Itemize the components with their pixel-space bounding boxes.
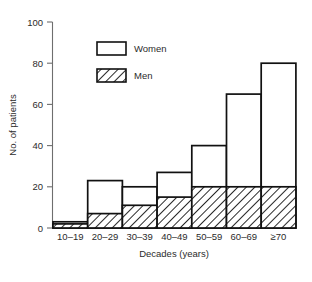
x-tick-label-20-29: 20–29 <box>92 231 118 242</box>
bar-men-30-39 <box>122 205 157 228</box>
bar-chart: 100 80 60 40 20 0 No. of patients <box>0 0 312 282</box>
chart-legend: Women Men <box>97 42 167 82</box>
bar-men-50-59 <box>192 187 227 228</box>
x-tick-label-60-69: 60–69 <box>231 231 257 242</box>
y-axis-tick-labels: 100 80 60 40 20 0 <box>27 17 43 234</box>
bar-men-10-19 <box>53 224 88 228</box>
chart-figure: 100 80 60 40 20 0 No. of patients <box>0 0 312 282</box>
x-tick-label-40-49: 40–49 <box>161 231 187 242</box>
legend-label-men: Men <box>134 70 152 81</box>
bars-group <box>53 63 296 228</box>
y-tick-label-0: 0 <box>38 223 43 234</box>
legend-swatch-women <box>97 42 126 55</box>
legend-label-women: Women <box>134 43 167 54</box>
legend-swatch-men <box>97 69 126 82</box>
x-tick-label-70plus: ≥70 <box>271 231 287 242</box>
bar-men-40-49 <box>157 197 192 228</box>
x-tick-label-10-19: 10–19 <box>57 231 83 242</box>
bar-men-60-69 <box>227 187 262 228</box>
x-tick-label-30-39: 30–39 <box>126 231 152 242</box>
bar-men-70plus <box>261 187 296 228</box>
y-tick-label-60: 60 <box>32 99 43 110</box>
x-tick-label-50-59: 50–59 <box>196 231 222 242</box>
y-tick-label-20: 20 <box>32 181 43 192</box>
x-axis-tick-labels: 10–19 20–29 30–39 40–49 50–59 60–69 ≥70 <box>57 231 286 242</box>
y-axis-ticks <box>47 22 53 228</box>
y-tick-label-100: 100 <box>27 17 43 28</box>
y-axis-title: No. of patients <box>7 94 18 156</box>
y-tick-label-40: 40 <box>32 140 43 151</box>
bar-men-20-29 <box>88 214 123 228</box>
x-axis-title: Decades (years) <box>139 248 209 259</box>
y-tick-label-80: 80 <box>32 58 43 69</box>
